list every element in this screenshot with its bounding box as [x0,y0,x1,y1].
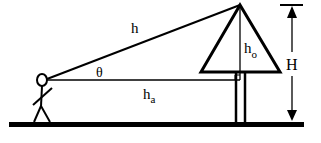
observer-figure [33,74,52,122]
label-ho-sub: o [252,48,258,60]
label-H: H [286,56,298,73]
ground-line [9,122,143,127]
arrow-down-icon [287,110,297,121]
diagram-canvas: h θ ha ho H [0,0,321,143]
label-ha-sub: a [151,93,156,105]
observer-head [37,74,47,86]
label-theta: θ [96,65,103,80]
label-ha: ha [143,86,156,105]
ground-line-right [143,122,304,127]
arrow-up-icon [287,6,297,18]
label-h: h [131,20,139,36]
observer-leg-left [34,106,41,122]
observer-leg-right [41,106,50,122]
